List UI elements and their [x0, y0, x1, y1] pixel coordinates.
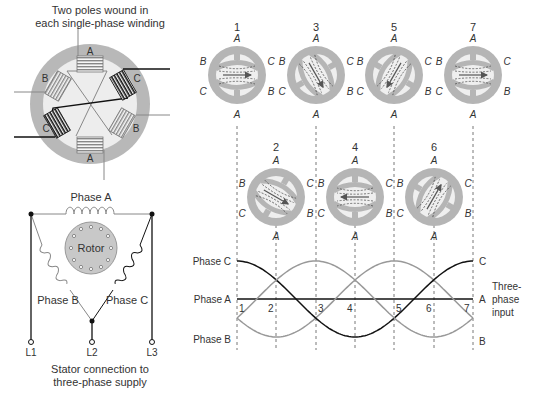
svg-text:B: B [268, 86, 275, 97]
terminal-l2 [90, 340, 95, 345]
rotor-label: Rotor [78, 242, 105, 254]
svg-text:C: C [346, 56, 354, 67]
svg-text:A: A [312, 109, 320, 120]
stator-caption-line2: each single-phase winding [0, 17, 200, 30]
svg-text:A: A [469, 33, 477, 44]
pole-label-a-top: A [87, 46, 94, 57]
svg-text:B: B [200, 56, 207, 67]
svg-text:B: B [436, 56, 443, 67]
stator-caption-line1: Two poles wound in [0, 4, 200, 17]
svg-text:5: 5 [391, 21, 397, 33]
svg-text:6: 6 [431, 141, 437, 153]
svg-text:C: C [306, 178, 314, 189]
svg-text:A: A [233, 109, 241, 120]
svg-text:B: B [425, 86, 432, 97]
phase-b-row-label: Phase B [193, 334, 231, 345]
svg-text:A: A [272, 231, 280, 242]
svg-text:C: C [385, 178, 393, 189]
svg-text:A: A [390, 33, 398, 44]
svg-text:3: 3 [313, 21, 319, 33]
terminal-l3-label: L3 [146, 347, 158, 358]
field-position-diagrams: 1AABCCB3AABCCB5AABCCB7AABCCB2AABCCB4AABC… [199, 21, 511, 242]
pole-label-c-left: C [42, 123, 49, 134]
svg-text:C: C [278, 86, 286, 97]
svg-text:C: C [435, 86, 443, 97]
side-note-line2: phase [492, 294, 520, 305]
tick-7: 7 [464, 303, 470, 314]
tick-2: 2 [268, 303, 274, 314]
svg-text:B: B [307, 208, 314, 219]
svg-text:A: A [351, 155, 359, 166]
svg-text:2: 2 [273, 141, 279, 153]
coil-a-bottom [77, 137, 103, 153]
svg-text:B: B [279, 56, 286, 67]
svg-text:C: C [238, 208, 246, 219]
terminal-l2-label: L2 [86, 347, 98, 358]
svg-text:B: B [239, 178, 246, 189]
tick-5: 5 [396, 303, 402, 314]
svg-text:C: C [424, 56, 432, 67]
svg-text:C: C [464, 178, 472, 189]
delta-circuit: Rotor Phase A Phase B Phase C L1 L2 L3 [25, 191, 158, 358]
phase-c-row-label: Phase C [193, 256, 231, 267]
field-disk-step-3: 3AABCCB [278, 21, 354, 120]
phase-c-label: Phase C [106, 294, 148, 306]
pole-label-a-bottom: A [87, 153, 94, 164]
phase-a-label: Phase A [71, 191, 113, 203]
coil-a-top [77, 56, 103, 72]
svg-text:A: A [469, 109, 477, 120]
tick-3: 3 [318, 303, 324, 314]
phase-b-end-label: B [479, 336, 486, 347]
waveform-chart: Phase C Phase A Phase B C A B Three- pha… [193, 256, 522, 347]
svg-text:A: A [272, 155, 280, 166]
svg-text:B: B [357, 56, 364, 67]
svg-text:B: B [504, 86, 511, 97]
svg-text:C: C [199, 86, 207, 97]
circuit-caption: Stator connection to three-phase supply [0, 363, 200, 389]
svg-text:C: C [396, 208, 404, 219]
svg-text:B: B [465, 208, 472, 219]
phase-c-end-label: C [479, 256, 486, 267]
svg-text:A: A [430, 231, 438, 242]
svg-text:C: C [317, 208, 325, 219]
side-note-line3: input [492, 307, 514, 318]
svg-text:A: A [430, 155, 438, 166]
tick-4: 4 [347, 303, 353, 314]
svg-text:B: B [386, 208, 393, 219]
svg-text:A: A [351, 231, 359, 242]
svg-text:C: C [267, 56, 275, 67]
side-note-line1: Three- [492, 281, 521, 292]
svg-text:B: B [347, 86, 354, 97]
terminal-l1 [29, 340, 34, 345]
svg-text:7: 7 [470, 21, 476, 33]
svg-text:C: C [356, 86, 364, 97]
field-disk-step-7: 7AABCCB [435, 21, 511, 120]
tick-6: 6 [426, 303, 432, 314]
tick-1: 1 [239, 303, 245, 314]
svg-text:A: A [390, 109, 398, 120]
circuit-caption-line1: Stator connection to [0, 363, 200, 376]
stator-diagram: A C B A C B [14, 27, 170, 180]
svg-text:1: 1 [234, 21, 240, 33]
svg-text:B: B [318, 178, 325, 189]
svg-text:A: A [233, 33, 241, 44]
pole-label-c-right: C [133, 73, 140, 84]
stator-caption: Two poles wound in each single-phase win… [0, 4, 200, 30]
phase-b-label: Phase B [37, 294, 79, 306]
svg-text:B: B [397, 178, 404, 189]
svg-text:4: 4 [352, 141, 358, 153]
terminal-l3 [150, 340, 155, 345]
field-disk-step-1: 1AABCCB [199, 21, 275, 120]
svg-text:A: A [312, 33, 320, 44]
pole-label-b-left: B [42, 73, 49, 84]
field-disk-step-5: 5AABCCB [356, 21, 432, 120]
three-phase-motor-figure: A C B A C B Rot [0, 0, 536, 401]
pole-label-b-right: B [133, 123, 140, 134]
terminal-l1-label: L1 [25, 347, 37, 358]
phase-a-row-label: Phase A [194, 294, 232, 305]
circuit-caption-line2: three-phase supply [0, 376, 200, 389]
svg-text:C: C [503, 56, 511, 67]
phase-a-end-label: A [479, 294, 486, 305]
